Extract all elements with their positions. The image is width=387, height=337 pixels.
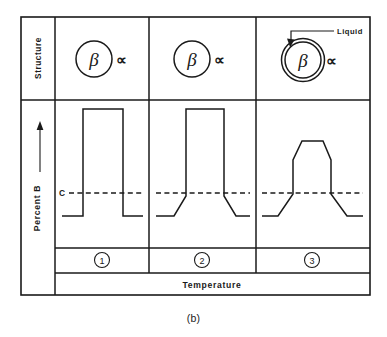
composition-reference-line: C (59, 188, 363, 198)
percent-b-arrow-head (37, 121, 44, 130)
row-label-structure: Structure (34, 37, 43, 79)
alpha-glyph-1: ∝ (116, 52, 127, 68)
liquid-label: Liquid (337, 27, 363, 36)
stage-marker-3: 3 (305, 253, 320, 268)
stage-number-3: 3 (309, 256, 314, 266)
liquid-arrow-head (287, 39, 294, 48)
stage-number-2: 2 (199, 256, 204, 266)
percent-b-label: Percent B (32, 185, 42, 231)
phase-diagram-figure: Structure Percent B β ∝ β ∝ β ∝ (0, 0, 387, 337)
concentration-profile-3 (262, 141, 363, 216)
figure-caption: (b) (0, 312, 387, 324)
structure-cell-2: β ∝ (174, 41, 225, 77)
concentration-profile-1 (62, 109, 143, 216)
composition-line-label: C (59, 188, 65, 198)
row-label-percent-b: Percent B (32, 121, 43, 231)
figure-canvas: Structure Percent B β ∝ β ∝ β ∝ (0, 0, 387, 337)
concentration-profile-2 (156, 109, 250, 216)
beta-glyph-1: β (88, 49, 99, 70)
stage-marker-2: 2 (195, 253, 210, 268)
structure-label: Structure (34, 37, 43, 79)
stage-marker-1: 1 (95, 253, 110, 268)
alpha-glyph-2: ∝ (214, 52, 225, 68)
profile-curve-panel-1 (62, 109, 143, 216)
profile-curve-panel-2 (156, 109, 250, 216)
stage-number-1: 1 (99, 256, 104, 266)
beta-glyph-3: β (297, 50, 308, 71)
temperature-label: Temperature (182, 280, 241, 290)
structure-cell-1: β ∝ (76, 41, 127, 77)
temperature-axis-band: Temperature (182, 280, 241, 290)
alpha-glyph-3: ∝ (326, 53, 337, 69)
structure-cell-3: β ∝ Liquid (282, 27, 363, 82)
beta-glyph-2: β (186, 49, 197, 70)
profile-curve-panel-3 (262, 141, 363, 216)
